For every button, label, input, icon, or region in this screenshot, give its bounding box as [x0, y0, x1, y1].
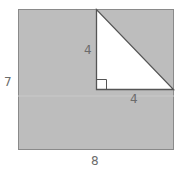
rect-width-label: 8 — [91, 154, 99, 168]
diagram-canvas: 7 8 4 4 — [0, 0, 180, 171]
triangle-horizontal-leg-label: 4 — [130, 92, 138, 106]
rect-height-label: 7 — [4, 75, 12, 89]
triangle-vertical-leg-label: 4 — [84, 43, 92, 57]
